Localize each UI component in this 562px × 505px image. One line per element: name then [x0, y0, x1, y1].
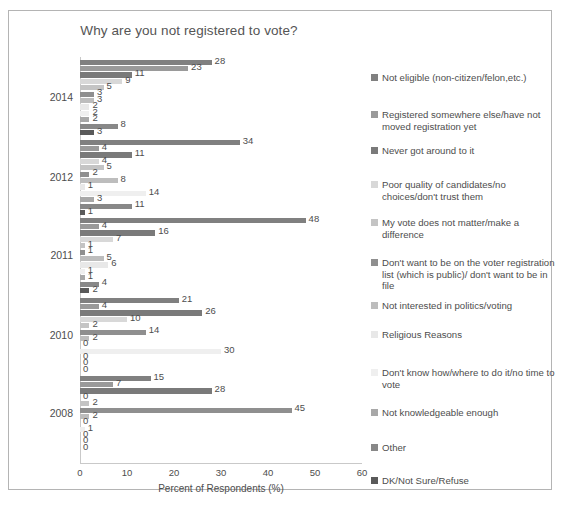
- bar-value-label: 3: [97, 193, 102, 203]
- bar[interactable]: [80, 243, 85, 248]
- bar[interactable]: [80, 269, 85, 274]
- legend-swatch-icon: [371, 111, 378, 118]
- bar[interactable]: [80, 224, 99, 229]
- bar-row: 0: [80, 445, 362, 451]
- legend-item-3[interactable]: Poor quality of candidates/no choices/do…: [371, 179, 561, 202]
- bar[interactable]: [80, 72, 132, 77]
- bar[interactable]: [80, 197, 94, 202]
- legend-swatch-icon: [371, 477, 378, 484]
- bar[interactable]: [80, 323, 89, 328]
- bar-value-label: 4: [102, 277, 107, 287]
- bar-value-label: 2: [92, 410, 97, 420]
- bar[interactable]: [80, 237, 113, 242]
- legend-item-11[interactable]: DK/Not Sure/Refuse: [371, 475, 561, 487]
- legend-label: DK/Not Sure/Refuse: [382, 475, 469, 487]
- legend-label: Don't know how/where to do it/no time to…: [382, 367, 561, 390]
- legend-item-7[interactable]: Religious Reasons: [371, 329, 561, 341]
- legend-swatch-icon: [371, 219, 378, 226]
- legend-label: Not interested in politics/voting: [382, 300, 512, 312]
- legend-label: Not eligible (non-citizen/felon,etc.): [382, 72, 527, 84]
- bar-value-label: 1: [88, 423, 93, 433]
- x-tick-label: 30: [216, 467, 227, 478]
- bar[interactable]: [80, 275, 85, 280]
- bar[interactable]: [80, 172, 89, 177]
- bar[interactable]: [80, 298, 179, 303]
- bar[interactable]: [80, 262, 108, 267]
- bar-value-label: 11: [135, 148, 145, 158]
- bar-group-2010: 21426102142030000: [80, 297, 362, 374]
- bar[interactable]: [80, 330, 146, 335]
- bar-value-label: 23: [191, 62, 202, 72]
- bar[interactable]: [80, 117, 89, 122]
- legend-item-4[interactable]: My vote does not matter/make a differenc…: [371, 217, 561, 240]
- bar-row: 2: [80, 287, 362, 293]
- bar[interactable]: [80, 111, 89, 116]
- legend-swatch-icon: [371, 147, 378, 154]
- bar-value-label: 26: [205, 306, 216, 316]
- bar-value-label: 14: [149, 325, 160, 335]
- bar-value-label: 21: [182, 294, 193, 304]
- legend-swatch-icon: [371, 181, 378, 188]
- bar-group-2008: 157280245201000: [80, 375, 362, 452]
- legend-item-6[interactable]: Not interested in politics/voting: [371, 300, 561, 312]
- bar[interactable]: [80, 349, 221, 354]
- bar[interactable]: [80, 184, 85, 189]
- bar-value-label: 0: [83, 442, 88, 452]
- legend-item-10[interactable]: Other: [371, 442, 561, 454]
- x-axis-line: [80, 463, 362, 464]
- legend-item-2[interactable]: Never got around to it: [371, 145, 561, 157]
- legend-swatch-icon: [371, 302, 378, 309]
- bar[interactable]: [80, 210, 85, 215]
- bar-value-label: 28: [215, 56, 226, 66]
- bar-value-label: 1: [88, 245, 93, 255]
- legend-item-1[interactable]: Registered somewhere else/have not moved…: [371, 109, 561, 132]
- legend-item-9[interactable]: Not knowledgeable enough: [371, 407, 561, 419]
- bar-value-label: 45: [295, 403, 306, 413]
- x-tick-label: 10: [122, 467, 133, 478]
- bar-value-label: 34: [243, 136, 254, 146]
- legend-swatch-icon: [371, 331, 378, 338]
- bar-value-label: 5: [107, 81, 112, 91]
- bar[interactable]: [80, 191, 146, 196]
- legend-swatch-icon: [371, 444, 378, 451]
- bar[interactable]: [80, 146, 99, 151]
- legend-label: Don't want to be on the voter registrati…: [382, 257, 561, 292]
- bar[interactable]: [80, 92, 94, 97]
- bar[interactable]: [80, 310, 202, 315]
- bar-value-label: 0: [83, 338, 88, 348]
- legend-label: Not knowledgeable enough: [382, 407, 498, 419]
- bar-value-label: 2: [92, 319, 97, 329]
- year-label-2008: 2008: [27, 407, 73, 419]
- legend-swatch-icon: [371, 74, 378, 81]
- bar-value-label: 3: [97, 126, 102, 136]
- bar[interactable]: [80, 79, 122, 84]
- bar-value-label: 7: [116, 378, 121, 388]
- bar[interactable]: [80, 159, 99, 164]
- legend-item-8[interactable]: Don't know how/where to do it/no time to…: [371, 367, 561, 390]
- bar-value-label: 16: [158, 226, 169, 236]
- bar[interactable]: [80, 408, 292, 413]
- bar[interactable]: [80, 317, 127, 322]
- bar[interactable]: [80, 401, 89, 406]
- legend-label: My vote does not matter/make a differenc…: [382, 217, 561, 240]
- bar-value-label: 4: [102, 300, 107, 310]
- plot-area: 2823119533222833441145281143111484167115…: [80, 57, 362, 463]
- bar-value-label: 48: [309, 214, 320, 224]
- legend-item-5[interactable]: Don't want to be on the voter registrati…: [371, 257, 561, 292]
- bar-value-label: 3: [97, 94, 102, 104]
- legend-item-0[interactable]: Not eligible (non-citizen/felon,etc.): [371, 72, 561, 84]
- legend-label: Never got around to it: [382, 145, 474, 157]
- bar[interactable]: [80, 130, 94, 135]
- bar[interactable]: [80, 288, 89, 293]
- x-tick-label: 20: [169, 467, 180, 478]
- legend-label: Religious Reasons: [382, 329, 462, 341]
- bar[interactable]: [80, 256, 104, 261]
- bar[interactable]: [80, 304, 99, 309]
- x-tick-label: 0: [77, 467, 82, 478]
- bar[interactable]: [80, 382, 113, 387]
- bar[interactable]: [80, 104, 89, 109]
- bar[interactable]: [80, 178, 118, 183]
- bar[interactable]: [80, 250, 85, 255]
- bar[interactable]: [80, 388, 212, 393]
- bar[interactable]: [80, 218, 306, 223]
